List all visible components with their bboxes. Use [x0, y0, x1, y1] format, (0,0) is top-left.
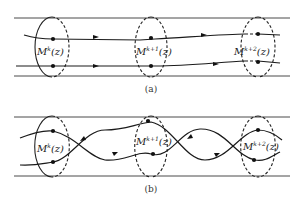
panel-b: Mk(z) Mk+1(z) Mk+2(z) (b) [14, 116, 290, 194]
label-mk1-b: Mk+1(z) [135, 135, 172, 147]
arrow-icon [93, 64, 99, 68]
arrow-icon [93, 35, 99, 39]
point-k2-lower [252, 158, 256, 162]
point-k1-lower [151, 152, 155, 156]
label-mk-b: Mk(z) [36, 142, 64, 154]
trajectory-upper-a-exit [258, 34, 280, 35]
trajectory-lower-a-exit [258, 61, 280, 63]
caption-b: (b) [145, 184, 158, 194]
point-k2-upper [256, 32, 260, 36]
point-k2-lower [256, 60, 260, 64]
trajectory-lower-a [16, 61, 245, 66]
label-mk2-a: Mk+2(z) [233, 45, 270, 57]
point-k-upper [51, 37, 55, 41]
point-k1-lower [149, 64, 153, 68]
point-k-lower [51, 160, 55, 164]
caption-a: (a) [145, 84, 157, 94]
diagram: Mk(z) Mk+1(z) Mk+2(z) (a) [0, 0, 303, 203]
point-k-upper [51, 129, 55, 133]
arrow-icon [80, 136, 86, 141]
point-k1-upper [149, 36, 153, 40]
panel-a: Mk(z) Mk+1(z) Mk+2(z) (a) [14, 17, 290, 94]
trajectory-upper-a [24, 34, 245, 40]
point-k1-upper [146, 119, 150, 123]
arrow-icon [112, 152, 118, 156]
point-k-lower [51, 64, 55, 68]
label-mk2-b: Mk+2(z) [242, 140, 279, 152]
point-k2-upper [256, 128, 260, 132]
label-mk1-a: Mk+1(z) [135, 45, 172, 57]
label-mk-a: Mk(z) [36, 45, 64, 57]
arrow-icon [187, 134, 193, 139]
